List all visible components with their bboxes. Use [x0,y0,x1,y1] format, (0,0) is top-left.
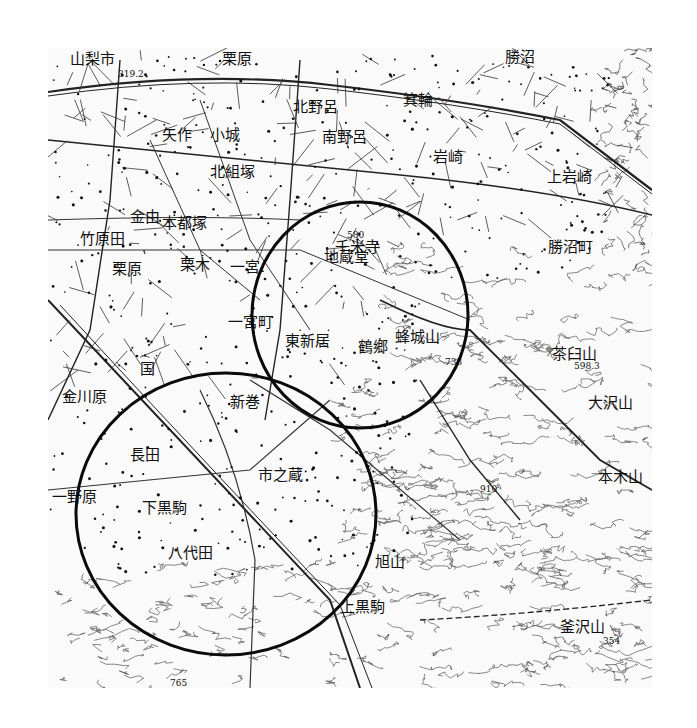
place-label-kosojiki: 千米寺 [335,240,380,255]
place-label-katsunuma-top: 勝沼 [505,50,535,65]
spot-height: 580 [347,231,364,240]
spot-height: 765 [170,679,187,688]
place-label-kaneyama: 金川原 [62,390,107,405]
place-label-kitanogo: 北野呂 [293,100,338,115]
place-label-takehara: 竹原田 [80,232,125,247]
spot-height: 733 [445,358,462,367]
spot-height: 598.3 [574,362,600,371]
place-label-hachijoyama: 蜂城山 [395,330,440,345]
place-label-kitakumizuka: 北組塚 [210,165,255,180]
place-label-kuruhara: 栗原 [112,262,142,277]
place-label-kuruki: 栗木 [180,258,210,273]
place-label-ichinoya: 一野原 [52,490,97,505]
place-label-asahiyama: 旭山 [375,555,405,570]
place-label-kojo: 小城 [210,128,240,143]
place-label-ichinomiya: 一宮 [230,260,260,275]
place-label-kamiiwasaki: 上岩崎 [547,170,592,185]
place-label-ichinomiya-machi: 一宮町 [228,315,273,330]
spot-height: 319.2 [118,70,144,79]
place-label-minowa: 箕輪 [403,93,433,108]
place-label-yasaku: 矢作 [162,128,192,143]
place-label-kokufu: 国 [140,362,155,377]
place-label-asohayama: 釜沢山 [560,620,605,635]
place-label-shimokurokoma: 下黒駒 [142,501,187,516]
place-label-tsuruga: 鶴郷 [358,340,388,355]
place-label-kanayoshi: 金由 [130,210,160,225]
place-label-higashi-niiyama: 東新居 [285,334,330,349]
place-label-honkiyama: 本木山 [598,470,643,485]
place-label-niimaki: 新巻 [230,395,260,410]
place-label-minaminoro: 南野呂 [322,130,367,145]
place-label-iwasaki: 岩崎 [433,150,463,165]
place-label-ichinokura: 市之蔵 [258,468,303,483]
place-label-kamikurokoma: 上黒駒 [340,600,385,615]
place-label-chausuyama: 茶臼山 [552,347,597,362]
place-label-nakatsuka: 本都塚 [162,216,207,231]
spot-height: 354 [603,637,620,646]
place-label-nagata: 長田 [130,448,160,463]
place-label-kurihara: 栗原 [222,52,252,67]
place-label-hatsuhata: 八代田 [168,546,213,561]
place-label-yamanashi-shi: 山梨市 [70,52,115,67]
spot-height: 910 [480,485,497,494]
place-label-osawayama: 大沢山 [588,396,633,411]
place-label-katsunuma-machi: 勝沼町 [548,240,593,255]
topographic-map: 山梨市栗原箕輪勝沼矢作小城北野呂南野呂岩崎上岩崎北組塚金由本都塚竹原田栗原栗木一… [48,48,652,688]
